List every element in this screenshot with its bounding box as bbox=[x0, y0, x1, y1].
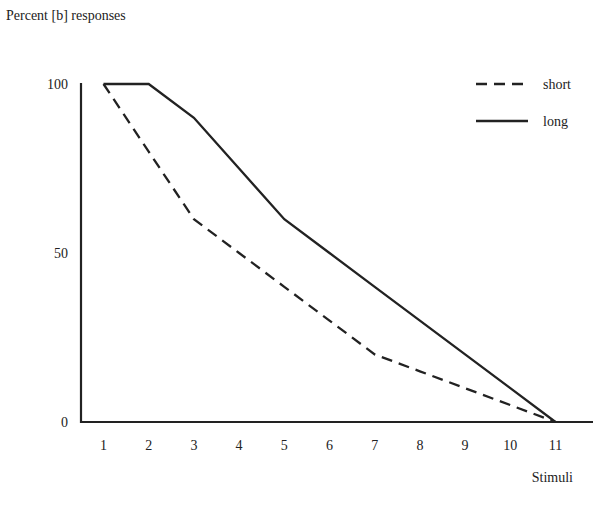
x-tick-label: 3 bbox=[190, 438, 197, 453]
y-tick-label: 0 bbox=[61, 415, 68, 430]
x-tick-labels: 1234567891011 bbox=[100, 438, 562, 453]
legend: short long bbox=[476, 77, 571, 129]
y-tick-labels: 050100 bbox=[47, 77, 68, 430]
legend-long-label: long bbox=[543, 114, 568, 129]
x-tick-label: 5 bbox=[281, 438, 288, 453]
x-tick-label: 7 bbox=[371, 438, 378, 453]
series-long-line bbox=[104, 84, 556, 422]
y-axis-label: Percent [b] responses bbox=[6, 8, 126, 23]
x-axis-label: Stimuli bbox=[532, 470, 573, 485]
y-tick-label: 100 bbox=[47, 77, 68, 92]
x-tick-label: 6 bbox=[326, 438, 333, 453]
y-tick-label: 50 bbox=[54, 246, 68, 261]
x-tick-label: 8 bbox=[416, 438, 423, 453]
x-tick-label: 10 bbox=[503, 438, 517, 453]
x-tick-label: 2 bbox=[145, 438, 152, 453]
x-tick-label: 9 bbox=[462, 438, 469, 453]
x-tick-label: 1 bbox=[100, 438, 107, 453]
x-tick-label: 4 bbox=[236, 438, 243, 453]
chart: Percent [b] responses 050100 12345678910… bbox=[0, 0, 614, 508]
legend-short-label: short bbox=[543, 77, 571, 92]
x-tick-label: 11 bbox=[549, 438, 562, 453]
